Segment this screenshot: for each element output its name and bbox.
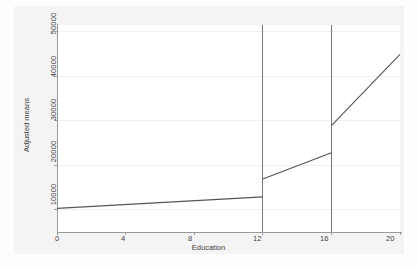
axis-lines [57,24,402,232]
gridlines [57,32,400,210]
chart-screenshot: 10000 20000 30000 40000 50000 0 4 8 12 1… [0,0,417,267]
series-line-1 [263,153,332,179]
chart-canvas [0,0,417,267]
data-series [57,54,400,208]
axis-ticks [54,32,400,235]
series-line-0 [57,197,263,209]
series-line-2 [331,54,400,125]
reference-lines [263,25,332,232]
